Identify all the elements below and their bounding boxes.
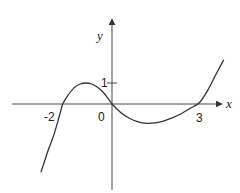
x-axis-label: x (225, 96, 232, 111)
y-axis-label: y (95, 28, 103, 43)
origin-label: 0 (98, 110, 105, 124)
x-tick-label-neg2: -2 (44, 110, 55, 124)
x-tick-label-3: 3 (196, 111, 203, 125)
y-tick-label-1: 1 (101, 76, 108, 90)
graph-canvas: y x 1 0 -2 3 (0, 0, 240, 193)
